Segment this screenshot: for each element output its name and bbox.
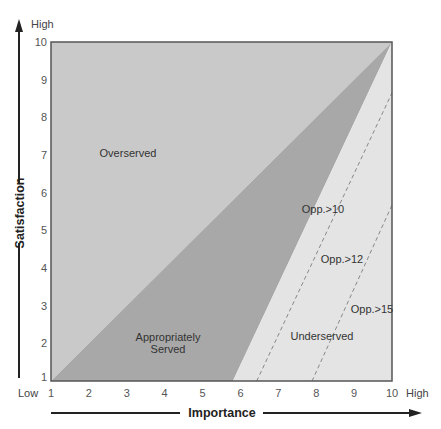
y-tick-label: 7 xyxy=(41,149,47,161)
y-tick-label: 2 xyxy=(41,337,47,349)
y-tick-label: 1 xyxy=(41,371,47,383)
x-tick-label: 7 xyxy=(275,387,281,399)
x-tick-label: 10 xyxy=(386,387,398,399)
y-tick-label: 3 xyxy=(41,300,47,312)
y-tick-label: 9 xyxy=(41,74,47,86)
y-tick-label: 8 xyxy=(41,111,47,123)
y-tick-label: 5 xyxy=(41,224,47,236)
x-tick-label: 4 xyxy=(162,387,168,399)
x-axis-ticks: 12345678910 xyxy=(48,387,398,399)
y-axis-arrowhead-icon xyxy=(15,19,23,32)
x-tick-label: 9 xyxy=(351,387,357,399)
x-axis-title: Importance xyxy=(188,406,255,420)
x-tick-label: 3 xyxy=(124,387,130,399)
opp-12-label: Opp.>12 xyxy=(321,253,364,265)
appropriately-served-label-line2: Served xyxy=(151,343,186,355)
x-tick-label: 2 xyxy=(86,387,92,399)
x-high-label: High xyxy=(406,387,429,399)
y-tick-label: 4 xyxy=(41,262,47,274)
y-tick-label: 6 xyxy=(41,187,47,199)
x-low-label: Low xyxy=(18,387,38,399)
opp-10-label: Opp.>10 xyxy=(302,203,345,215)
overserved-label: Overserved xyxy=(100,147,157,159)
opportunity-landscape-chart: 12345678910 12345678910 Overserved Appro… xyxy=(0,0,441,429)
underserved-label: Underserved xyxy=(291,330,354,342)
y-axis-ticks: 12345678910 xyxy=(35,36,47,383)
x-tick-label: 6 xyxy=(237,387,243,399)
y-tick-label: 10 xyxy=(35,36,47,48)
y-axis-title: Satisfaction xyxy=(13,178,27,249)
x-axis-arrowhead-icon xyxy=(409,409,422,417)
opp-15-label: Opp.>15 xyxy=(351,303,394,315)
appropriately-served-label-line1: Appropriately xyxy=(136,331,201,343)
x-tick-label: 1 xyxy=(48,387,54,399)
x-tick-label: 8 xyxy=(313,387,319,399)
y-high-label: High xyxy=(31,18,54,30)
x-tick-label: 5 xyxy=(199,387,205,399)
